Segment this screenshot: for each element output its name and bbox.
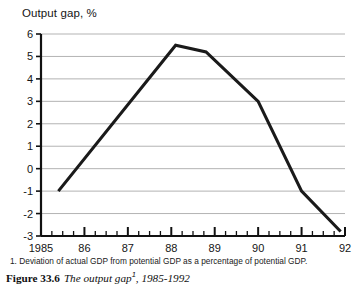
svg-text:89: 89 — [209, 242, 221, 254]
svg-text:90: 90 — [252, 242, 264, 254]
y-axis-tick-labels: 6543210-1-2-3 — [23, 28, 33, 242]
svg-text:1: 1 — [27, 140, 33, 152]
svg-text:3: 3 — [27, 95, 33, 107]
svg-text:91: 91 — [295, 242, 307, 254]
svg-text:88: 88 — [165, 242, 177, 254]
caption-label: Figure 33.6 — [6, 272, 60, 284]
footnote: 1. Deviation of actual GDP from potentia… — [10, 256, 307, 266]
svg-text:-3: -3 — [23, 230, 33, 242]
svg-text:0: 0 — [27, 163, 33, 175]
svg-text:6: 6 — [27, 28, 33, 40]
svg-text:2: 2 — [27, 118, 33, 130]
x-axis-tick-labels: 198586878889909192 — [29, 242, 351, 254]
svg-text:-1: -1 — [23, 185, 33, 197]
caption-text: The output gap — [64, 272, 132, 284]
figure-caption: Figure 33.6The output gap1, 1985-1992 — [6, 270, 190, 284]
figure-output-gap: Output gap, % 6543210-1-2-3 198586878889… — [0, 0, 361, 289]
footnote-text: Deviation of actual GDP from potential G… — [19, 256, 307, 266]
caption-suffix: , 1985-1992 — [136, 272, 190, 284]
svg-text:-2: -2 — [23, 208, 33, 220]
svg-text:1985: 1985 — [29, 242, 53, 254]
svg-text:4: 4 — [27, 73, 33, 85]
svg-text:87: 87 — [122, 242, 134, 254]
svg-text:86: 86 — [78, 242, 90, 254]
svg-text:92: 92 — [339, 242, 351, 254]
output-gap-line — [58, 45, 340, 231]
chart-plot-area: 6543210-1-2-3 198586878889909192 — [0, 0, 361, 256]
svg-text:5: 5 — [27, 50, 33, 62]
footnote-marker: 1. — [10, 256, 17, 266]
